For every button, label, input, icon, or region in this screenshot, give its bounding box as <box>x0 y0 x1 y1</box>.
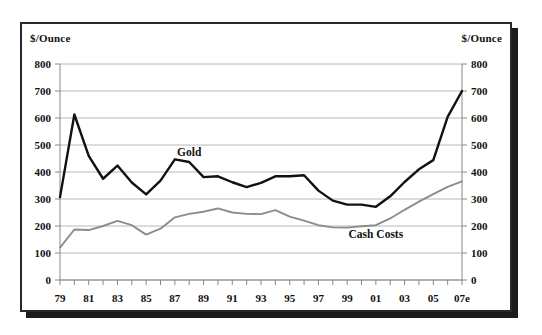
series-line-gold <box>60 91 462 207</box>
y-tick-label-right: 700 <box>471 85 488 97</box>
y-axis-left-group: 0100200300400500600700800 <box>35 58 61 286</box>
series-annotation-cash-costs: Cash Costs <box>349 228 404 240</box>
figure-frame: $/Ounce $/Ounce 010020030040050060070080… <box>20 22 512 312</box>
y-tick-label-right: 800 <box>471 58 488 70</box>
x-tick-label: 85 <box>141 292 153 304</box>
x-tick-label: 01 <box>370 292 381 304</box>
y-tick-label-right: 400 <box>471 166 488 178</box>
x-tick-label: 79 <box>55 292 67 304</box>
y-tick-label-right: 600 <box>471 112 488 124</box>
x-tick-label: 89 <box>198 292 210 304</box>
y-tick-label-left: 700 <box>35 85 52 97</box>
plot-area: 0100200300400500600700800 01002003004005… <box>22 24 510 310</box>
y-tick-label-left: 200 <box>35 220 52 232</box>
x-tick-label: 93 <box>256 292 268 304</box>
y-tick-label-left: 0 <box>46 274 52 286</box>
line-chart-svg: 0100200300400500600700800 01002003004005… <box>22 24 510 310</box>
y-axis-right-group: 0100200300400500600700800 <box>462 58 488 286</box>
series-group <box>60 91 462 248</box>
x-axis-group: 798183858789919395979901030507e <box>55 280 471 304</box>
x-tick-label: 99 <box>342 292 354 304</box>
y-tick-label-right: 0 <box>471 274 477 286</box>
y-tick-label-right: 500 <box>471 139 488 151</box>
x-tick-label: 07e <box>454 292 470 304</box>
y-tick-label-left: 600 <box>35 112 52 124</box>
x-tick-label: 95 <box>284 292 296 304</box>
y-tick-label-right: 100 <box>471 247 488 259</box>
y-tick-label-left: 300 <box>35 193 52 205</box>
y-tick-label-right: 200 <box>471 220 488 232</box>
x-tick-label: 97 <box>313 292 325 304</box>
y-tick-label-left: 800 <box>35 58 52 70</box>
series-annotation-gold: Gold <box>177 146 202 158</box>
x-tick-label: 87 <box>169 292 181 304</box>
y-tick-label-left: 500 <box>35 139 52 151</box>
x-tick-label: 81 <box>83 292 94 304</box>
y-tick-label-left: 100 <box>35 247 52 259</box>
y-tick-label-left: 400 <box>35 166 52 178</box>
chart-figure-root: $/Ounce $/Ounce 010020030040050060070080… <box>0 0 542 335</box>
x-tick-label: 91 <box>227 292 238 304</box>
x-tick-label: 05 <box>428 292 440 304</box>
x-tick-label: 03 <box>399 292 411 304</box>
y-tick-label-right: 300 <box>471 193 488 205</box>
gridlines-group <box>60 64 462 280</box>
x-tick-label: 83 <box>112 292 124 304</box>
